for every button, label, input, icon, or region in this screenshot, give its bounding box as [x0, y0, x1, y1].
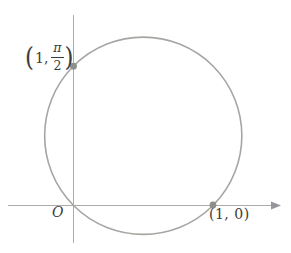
fraction-numerator: π	[51, 42, 63, 58]
polar-circle-figure: ( 1, π 2 ) (1, 0) O	[0, 0, 291, 253]
coord-first: 1,	[35, 49, 48, 66]
origin-label: O	[52, 204, 63, 220]
open-paren: (	[25, 42, 34, 72]
x-axis-arrowhead-icon	[271, 202, 281, 210]
point-label-right: (1, 0)	[209, 206, 250, 222]
pi-over-two-fraction: π 2	[51, 42, 63, 72]
fraction-denominator: 2	[53, 58, 61, 73]
point-label-top: ( 1, π 2 )	[25, 42, 74, 72]
close-paren: )	[65, 42, 74, 72]
